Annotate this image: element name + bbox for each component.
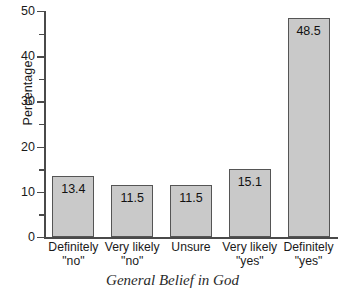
bar: 11.5 (111, 185, 153, 237)
y-tick-major (37, 237, 45, 238)
bar: 48.5 (288, 18, 330, 237)
bar: 13.4 (52, 176, 94, 237)
y-tick-label: 20 (0, 141, 35, 154)
bar: 15.1 (229, 169, 271, 237)
y-tick-label: 10 (0, 186, 35, 199)
y-tick-label: 30 (0, 95, 35, 108)
bar-value-label: 13.4 (53, 182, 93, 196)
x-axis-line (44, 237, 338, 239)
y-tick-label: 50 (0, 5, 35, 18)
bar-value-label: 11.5 (171, 191, 211, 205)
bar-value-label: 11.5 (112, 191, 152, 205)
x-axis-title: General Belief in God (0, 272, 345, 288)
x-category-label: Definitely"yes" (273, 241, 344, 268)
bar-chart-figure: Percentage 01020304050 13.411.511.515.14… (0, 0, 345, 288)
y-tick-label: 0 (0, 231, 35, 244)
bar-value-label: 48.5 (289, 24, 329, 38)
plot-area: 13.411.511.515.148.5 (44, 11, 338, 237)
bar-value-label: 15.1 (230, 175, 270, 189)
y-tick-label: 40 (0, 50, 35, 63)
bar: 11.5 (170, 185, 212, 237)
